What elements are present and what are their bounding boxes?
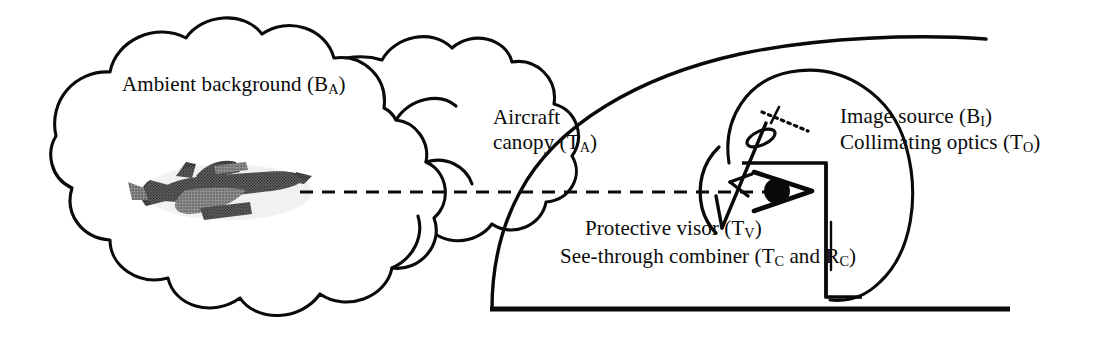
label-aircraft-canopy-line2: canopy (TA) (493, 130, 597, 160)
label-see-through-combiner-tail: ) (849, 244, 856, 268)
label-protective-visor-text: Protective visor (T (585, 216, 744, 240)
diagram-canvas (0, 0, 1112, 338)
label-aircraft-canopy-subscript: A (580, 139, 590, 155)
label-ambient-background-subscript: A (328, 81, 338, 97)
figure-root: Ambient background (BA) Aircraft canopy … (0, 0, 1112, 338)
label-protective-visor-tail: ) (755, 216, 762, 240)
label-see-through-combiner-mid: and R (784, 244, 839, 268)
label-see-through-combiner-subscript-1: C (775, 253, 785, 269)
label-see-through-combiner: See-through combiner (TC and RC) (560, 244, 856, 274)
label-aircraft-canopy-text: canopy (T (493, 130, 580, 154)
label-protective-visor: Protective visor (TV) (585, 216, 762, 246)
label-protective-visor-subscript: V (744, 225, 754, 241)
label-see-through-combiner-text: See-through combiner (T (560, 244, 775, 268)
label-aircraft-canopy-tail: ) (590, 130, 597, 154)
dotted-source-line (762, 107, 808, 131)
label-image-source-text: Image source (B (840, 104, 980, 128)
label-ambient-background-tail: ) (339, 72, 346, 96)
label-aircraft-canopy-line1: Aircraft (493, 105, 597, 130)
label-ambient-background-text: Ambient background (B (122, 72, 328, 96)
label-collimating-optics-tail: ) (1033, 130, 1040, 154)
label-ambient-background: Ambient background (BA) (122, 72, 346, 102)
label-see-through-combiner-subscript-2: C (840, 253, 850, 269)
label-collimating-optics: Collimating optics (TO) (840, 130, 1040, 160)
cloud-outline (51, 18, 579, 316)
label-aircraft-canopy: Aircraft canopy (TA) (493, 105, 597, 160)
label-collimating-optics-subscript: O (1023, 139, 1033, 155)
label-collimating-optics-text: Collimating optics (T (840, 130, 1023, 154)
label-image-source-tail: ) (985, 104, 992, 128)
